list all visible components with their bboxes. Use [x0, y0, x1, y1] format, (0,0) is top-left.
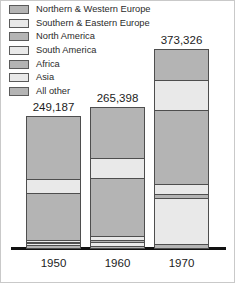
x-axis-tick-label: 1970	[169, 257, 195, 269]
bar-group: 373,3261970	[154, 49, 209, 249]
bar-segment[interactable]	[91, 179, 144, 237]
bar-segment[interactable]	[91, 247, 144, 248]
bar-segment[interactable]	[155, 245, 208, 248]
bar-segment[interactable]	[155, 50, 208, 81]
stacked-bar[interactable]	[154, 49, 209, 249]
bar-total-label: 373,326	[161, 34, 203, 46]
bar-total-label: 249,187	[33, 101, 75, 113]
bar-group: 249,1871950	[26, 116, 81, 249]
stacked-bar[interactable]	[90, 107, 145, 249]
bar-segment[interactable]	[155, 81, 208, 111]
x-axis-tick-label: 1950	[41, 257, 67, 269]
bar-total-label: 265,398	[97, 92, 139, 104]
bar-segment[interactable]	[91, 159, 144, 179]
stacked-bar[interactable]	[26, 116, 81, 249]
plot-area: 249,1871950265,3981960373,3261970	[1, 1, 236, 284]
bar-segment[interactable]	[27, 117, 80, 180]
bar-segment[interactable]	[155, 185, 208, 195]
bar-segment[interactable]	[155, 199, 208, 244]
bar-segment[interactable]	[27, 194, 80, 240]
bar-segment[interactable]	[91, 108, 144, 159]
bar-segment[interactable]	[27, 246, 80, 248]
bar-group: 265,3981960	[90, 107, 145, 249]
x-axis-tick-label: 1960	[105, 257, 131, 269]
bar-segment[interactable]	[155, 111, 208, 185]
chart-frame: Northern & Western EuropeSouthern & East…	[0, 0, 235, 283]
bar-segment[interactable]	[27, 180, 80, 194]
